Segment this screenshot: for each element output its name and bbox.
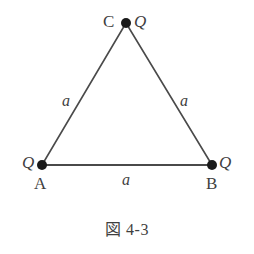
charge-label-a: Q: [22, 154, 34, 171]
vertex-label-c: C: [103, 13, 114, 30]
side-cb-line: [126, 23, 212, 165]
side-ca-line: [42, 23, 126, 165]
side-length-label-ca: a: [62, 93, 70, 109]
side-length-label-ab: a: [122, 172, 130, 188]
side-length-label-cb: a: [180, 93, 188, 109]
vertex-dot-c: [121, 18, 131, 28]
physics-figure: C A B Q Q Q a a a 図 4-3: [0, 0, 254, 254]
charge-label-c: Q: [134, 13, 146, 30]
vertex-label-b: B: [206, 175, 217, 192]
figure-caption: 図 4-3: [0, 216, 254, 240]
vertex-dot-b: [207, 160, 217, 170]
vertex-dot-a: [37, 160, 47, 170]
charge-label-b: Q: [219, 154, 231, 171]
vertex-label-a: A: [34, 175, 46, 192]
